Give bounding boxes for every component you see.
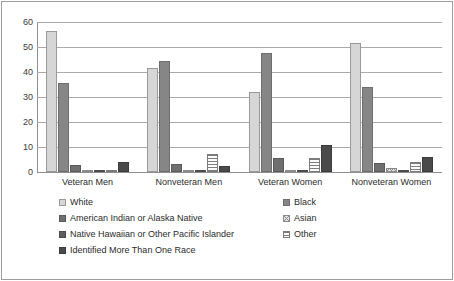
bar-asian	[183, 170, 194, 173]
bar-other	[106, 170, 117, 172]
bar-native-hawaiian-or-other-pacific-islander	[195, 170, 206, 172]
legend-label: Other	[294, 229, 317, 239]
bar-group-nonveteran-men	[138, 22, 239, 172]
y-tick-0: 0	[5, 168, 33, 177]
bar-identified-more-than-one-race	[118, 162, 129, 173]
legend-item-american-indian-or-alaska-native[interactable]: American Indian or Alaska Native	[59, 213, 283, 223]
category-label-nonveteran-women: Nonveteran Women	[341, 177, 442, 188]
bar-american-indian-or-alaska-native	[171, 164, 182, 173]
legend-label: White	[70, 197, 93, 207]
y-tick-50: 50	[5, 43, 33, 52]
legend-swatch-icon	[283, 215, 290, 222]
chart-legend: WhiteBlackAmerican Indian or Alaska Nati…	[59, 194, 389, 258]
bar-black	[362, 87, 373, 172]
bar-native-hawaiian-or-other-pacific-islander	[297, 170, 308, 172]
y-tick-10: 10	[5, 143, 33, 152]
legend-label: Black	[294, 197, 316, 207]
legend-swatch-icon	[283, 231, 290, 238]
legend-row: Native Hawaiian or Other Pacific Islande…	[59, 226, 389, 242]
bar-other	[207, 154, 218, 172]
legend-item-native-hawaiian-or-other-pacific-islander[interactable]: Native Hawaiian or Other Pacific Islande…	[59, 229, 283, 239]
legend-item-black[interactable]: Black	[283, 197, 389, 207]
plot-area	[37, 22, 442, 172]
y-tick-40: 40	[5, 68, 33, 77]
bar-white	[249, 92, 260, 172]
y-axis-tick-labels: 60 50 40 30 20 10 0	[0, 0, 33, 281]
bar-black	[261, 53, 272, 172]
bar-identified-more-than-one-race	[219, 166, 230, 173]
legend-swatch-icon	[59, 199, 66, 206]
legend-label: Asian	[294, 213, 317, 223]
bar-identified-more-than-one-race	[321, 145, 332, 172]
bar-asian	[386, 168, 397, 172]
bar-group-nonveteran-women	[341, 22, 442, 172]
category-label-nonveteran-men: Nonveteran Men	[138, 177, 239, 188]
legend-item-white[interactable]: White	[59, 197, 283, 207]
y-tick-30: 30	[5, 93, 33, 102]
legend-swatch-icon	[59, 215, 66, 222]
bar-native-hawaiian-or-other-pacific-islander	[94, 170, 105, 172]
bar-identified-more-than-one-race	[422, 157, 433, 172]
bars-container	[37, 22, 138, 172]
legend-row: Identified More Than One Race	[59, 242, 389, 258]
legend-item-other[interactable]: Other	[283, 229, 389, 239]
bar-american-indian-or-alaska-native	[70, 165, 81, 172]
bars-container	[138, 22, 239, 172]
category-label-veteran-women: Veteran Women	[240, 177, 341, 188]
y-tick-60: 60	[5, 18, 33, 27]
legend-swatch-icon	[59, 231, 66, 238]
bar-white	[350, 43, 361, 172]
bar-group-veteran-men	[37, 22, 138, 172]
x-axis-category-labels: Veteran MenNonveteran MenVeteran WomenNo…	[37, 177, 442, 188]
legend-label: Identified More Than One Race	[70, 245, 195, 255]
legend-label: American Indian or Alaska Native	[70, 213, 203, 223]
legend-row: WhiteBlack	[59, 194, 389, 210]
legend-item-identified-more-than-one-race[interactable]: Identified More Than One Race	[59, 245, 283, 255]
bar-groups	[37, 22, 442, 172]
bar-american-indian-or-alaska-native	[374, 163, 385, 173]
y-tick-20: 20	[5, 118, 33, 127]
bar-black	[159, 61, 170, 172]
legend-swatch-icon	[283, 199, 290, 206]
gridline-0-baseline	[37, 172, 442, 173]
bar-other	[410, 162, 421, 172]
bar-native-hawaiian-or-other-pacific-islander	[398, 170, 409, 172]
bar-asian	[82, 170, 93, 172]
bar-group-veteran-women	[240, 22, 341, 172]
bar-white	[147, 68, 158, 173]
bars-container	[341, 22, 442, 172]
legend-swatch-icon	[59, 247, 66, 254]
category-label-veteran-men: Veteran Men	[37, 177, 138, 188]
bar-asian	[285, 170, 296, 172]
grouped-bar-chart: 60 50 40 30 20 10 0 Veteran MenNonvetera…	[0, 0, 454, 281]
bar-black	[58, 83, 69, 172]
legend-item-asian[interactable]: Asian	[283, 213, 389, 223]
bars-container	[240, 22, 341, 172]
bar-white	[46, 31, 57, 172]
legend-label: Native Hawaiian or Other Pacific Islande…	[70, 229, 234, 239]
bar-other	[309, 158, 320, 172]
legend-row: American Indian or Alaska NativeAsian	[59, 210, 389, 226]
bar-american-indian-or-alaska-native	[273, 158, 284, 172]
